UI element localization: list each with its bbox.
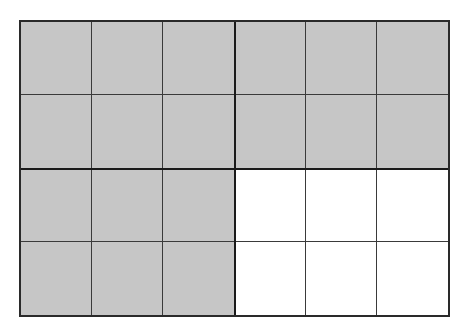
grid-cell: [163, 95, 234, 168]
grid-cell: [306, 242, 377, 315]
grid-cell: [92, 170, 163, 243]
grid-cell: [306, 170, 377, 243]
grid-cell: [163, 22, 234, 95]
fraction-grid: [19, 20, 450, 317]
grid-cell: [236, 242, 307, 315]
grid-cell: [21, 95, 92, 168]
grid-cell: [306, 95, 377, 168]
block-bottom-right-unshaded: [235, 169, 449, 316]
grid-cell: [163, 242, 234, 315]
grid-cell: [236, 170, 307, 243]
grid-cell: [21, 22, 92, 95]
grid-cell: [236, 95, 307, 168]
grid-cell: [377, 170, 448, 243]
block-top-left-shaded: [21, 22, 235, 169]
grid-cell: [377, 242, 448, 315]
grid-cell: [377, 95, 448, 168]
grid-cell: [163, 170, 234, 243]
grid-cell: [92, 95, 163, 168]
grid-cell: [236, 22, 307, 95]
grid-cell: [377, 22, 448, 95]
grid-cell: [92, 242, 163, 315]
grid-cell: [92, 22, 163, 95]
grid-cell: [306, 22, 377, 95]
grid-cell: [21, 242, 92, 315]
block-top-right-shaded: [235, 22, 449, 169]
block-bottom-left-shaded: [21, 169, 235, 316]
grid-cell: [21, 170, 92, 243]
